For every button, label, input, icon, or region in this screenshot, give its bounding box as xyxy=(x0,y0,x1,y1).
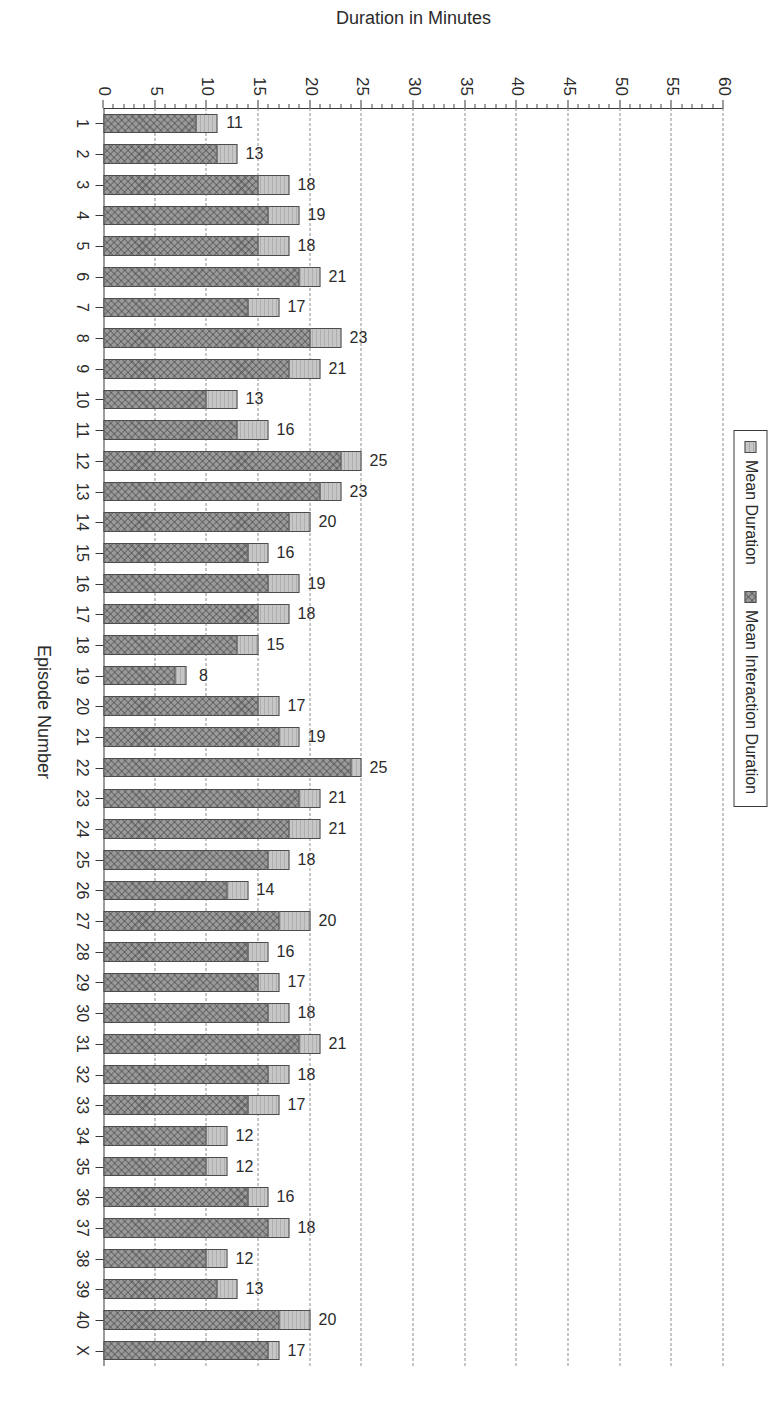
y-axis-minor-tick xyxy=(247,104,248,109)
bar-group[interactable]: 17 xyxy=(103,1341,723,1361)
bar-value-label: 18 xyxy=(297,605,315,623)
bar-group[interactable]: 20 xyxy=(103,512,723,532)
bar-segment-mean-interaction-duration[interactable] xyxy=(103,451,341,471)
bar-group[interactable]: 12 xyxy=(103,1126,723,1146)
bar-group[interactable]: 15 xyxy=(103,635,723,655)
y-axis-minor-tick xyxy=(546,104,547,109)
x-axis-tick xyxy=(95,890,103,891)
bar-group[interactable]: 16 xyxy=(103,543,723,563)
bar-segment-mean-interaction-duration[interactable] xyxy=(103,635,237,655)
bar-segment-mean-interaction-duration[interactable] xyxy=(103,574,268,594)
bar-group[interactable]: 17 xyxy=(103,298,723,318)
y-axis-minor-tick xyxy=(598,104,599,109)
bar-segment-mean-interaction-duration[interactable] xyxy=(103,144,217,164)
bar-group[interactable]: 21 xyxy=(103,267,723,287)
bar-segment-mean-interaction-duration[interactable] xyxy=(103,267,299,287)
bar-segment-mean-interaction-duration[interactable] xyxy=(103,175,258,195)
y-axis-minor-tick xyxy=(474,104,475,109)
bar-segment-mean-interaction-duration[interactable] xyxy=(103,206,268,226)
bar-segment-mean-interaction-duration[interactable] xyxy=(103,1187,248,1207)
bar-segment-mean-interaction-duration[interactable] xyxy=(103,911,279,931)
bar-group[interactable]: 18 xyxy=(103,1003,723,1023)
bar-segment-mean-interaction-duration[interactable] xyxy=(103,390,206,410)
bar-group[interactable]: 21 xyxy=(103,1034,723,1054)
bar-group[interactable]: 19 xyxy=(103,206,723,226)
bar-group[interactable]: 18 xyxy=(103,236,723,256)
bar-segment-mean-interaction-duration[interactable] xyxy=(103,1249,206,1269)
bar-value-label: 20 xyxy=(318,912,336,930)
bar-group[interactable]: 13 xyxy=(103,144,723,164)
bar-group[interactable]: 8 xyxy=(103,666,723,686)
bar-group[interactable]: 18 xyxy=(103,1218,723,1238)
bar-segment-mean-interaction-duration[interactable] xyxy=(103,819,289,839)
bar-group[interactable]: 23 xyxy=(103,328,723,348)
bar-group[interactable]: 20 xyxy=(103,1310,723,1330)
bar-group[interactable]: 20 xyxy=(103,911,723,931)
bar-segment-mean-interaction-duration[interactable] xyxy=(103,1341,268,1361)
bar-value-label: 17 xyxy=(287,298,305,316)
y-axis-minor-tick xyxy=(712,104,713,109)
x-axis-tick-label: 28 xyxy=(72,943,90,961)
bar-group[interactable]: 13 xyxy=(103,390,723,410)
bar-segment-mean-interaction-duration[interactable] xyxy=(103,1310,279,1330)
bar-group[interactable]: 18 xyxy=(103,175,723,195)
bar-segment-mean-interaction-duration[interactable] xyxy=(103,328,310,348)
bar-group[interactable]: 18 xyxy=(103,1065,723,1085)
bar-group[interactable]: 18 xyxy=(103,604,723,624)
x-axis-tick-label: 21 xyxy=(72,728,90,746)
bar-segment-mean-interaction-duration[interactable] xyxy=(103,1003,268,1023)
bar-group[interactable]: 21 xyxy=(103,819,723,839)
bar-group[interactable]: 23 xyxy=(103,482,723,502)
bar-group[interactable]: 11 xyxy=(103,114,723,134)
bar-group[interactable]: 18 xyxy=(103,850,723,870)
bar-segment-mean-interaction-duration[interactable] xyxy=(103,482,320,502)
bar-segment-mean-interaction-duration[interactable] xyxy=(103,666,175,686)
bar-group[interactable]: 17 xyxy=(103,696,723,716)
bar-segment-mean-interaction-duration[interactable] xyxy=(103,298,248,318)
bar-segment-mean-interaction-duration[interactable] xyxy=(103,850,268,870)
bar-group[interactable]: 16 xyxy=(103,1187,723,1207)
bar-value-label: 13 xyxy=(245,390,263,408)
bar-group[interactable]: 21 xyxy=(103,359,723,379)
bar-segment-mean-interaction-duration[interactable] xyxy=(103,512,289,532)
bar-group[interactable]: 13 xyxy=(103,1279,723,1299)
bar-group[interactable]: 16 xyxy=(103,420,723,440)
bar-segment-mean-interaction-duration[interactable] xyxy=(103,973,258,993)
bar-group[interactable]: 14 xyxy=(103,881,723,901)
bar-group[interactable]: 17 xyxy=(103,1095,723,1115)
bar-group[interactable]: 12 xyxy=(103,1157,723,1177)
bar-segment-mean-interaction-duration[interactable] xyxy=(103,1126,206,1146)
bar-value-label: 12 xyxy=(235,1250,253,1268)
bar-segment-mean-interaction-duration[interactable] xyxy=(103,1034,299,1054)
bar-group[interactable]: 25 xyxy=(103,451,723,471)
bar-segment-mean-interaction-duration[interactable] xyxy=(103,1157,206,1177)
bar-group[interactable]: 19 xyxy=(103,727,723,747)
bar-segment-mean-interaction-duration[interactable] xyxy=(103,114,196,134)
bar-group[interactable]: 19 xyxy=(103,574,723,594)
bar-group[interactable]: 17 xyxy=(103,973,723,993)
bar-segment-mean-interaction-duration[interactable] xyxy=(103,881,227,901)
bar-segment-mean-interaction-duration[interactable] xyxy=(103,758,351,778)
bar-segment-mean-interaction-duration[interactable] xyxy=(103,1095,248,1115)
bar-segment-mean-interaction-duration[interactable] xyxy=(103,789,299,809)
bar-segment-mean-interaction-duration[interactable] xyxy=(103,942,248,962)
y-axis-tick xyxy=(257,100,258,108)
bar-group[interactable]: 25 xyxy=(103,758,723,778)
y-axis-minor-tick xyxy=(639,104,640,109)
bar-group[interactable]: 21 xyxy=(103,789,723,809)
bar-segment-mean-interaction-duration[interactable] xyxy=(103,543,248,563)
x-axis-tick xyxy=(95,645,103,646)
x-axis-tick-label: 12 xyxy=(72,452,90,470)
y-axis-minor-tick xyxy=(629,104,630,109)
bar-segment-mean-interaction-duration[interactable] xyxy=(103,604,258,624)
bar-segment-mean-interaction-duration[interactable] xyxy=(103,359,289,379)
bar-segment-mean-interaction-duration[interactable] xyxy=(103,1218,268,1238)
bar-group[interactable]: 16 xyxy=(103,942,723,962)
bar-segment-mean-interaction-duration[interactable] xyxy=(103,696,258,716)
bar-segment-mean-interaction-duration[interactable] xyxy=(103,236,258,256)
bar-group[interactable]: 12 xyxy=(103,1249,723,1269)
bar-segment-mean-interaction-duration[interactable] xyxy=(103,1065,268,1085)
bar-segment-mean-interaction-duration[interactable] xyxy=(103,420,237,440)
bar-segment-mean-interaction-duration[interactable] xyxy=(103,727,279,747)
bar-segment-mean-interaction-duration[interactable] xyxy=(103,1279,217,1299)
